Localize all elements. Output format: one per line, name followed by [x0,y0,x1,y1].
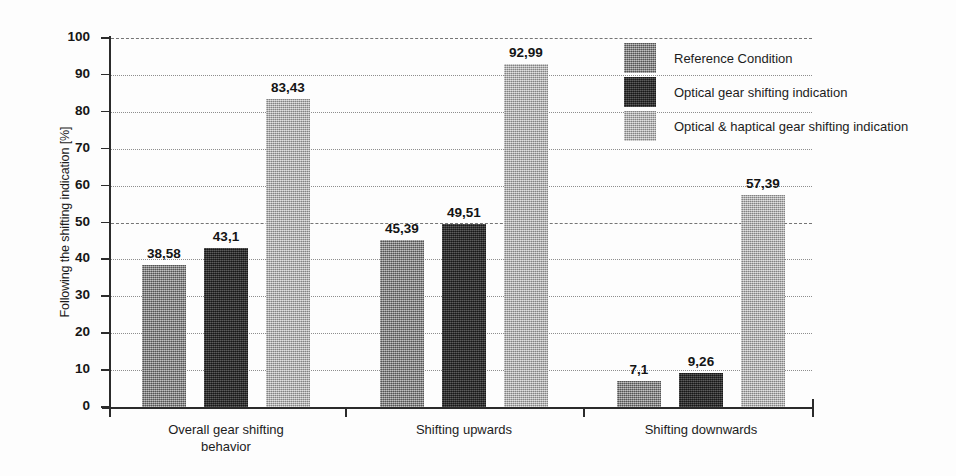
bar-value-label: 9,26 [665,354,737,369]
legend-swatch-icon [624,111,656,141]
bar-chart-figure: Following the shifting indication [%] 10… [0,0,956,476]
legend-label: Reference Condition [674,51,793,66]
bar[interactable] [617,381,661,407]
bar[interactable] [204,248,248,407]
bar-value-label: 38,58 [128,246,200,261]
x-axis-tick [345,408,347,417]
bar[interactable] [504,64,548,407]
legend-label: Optical & haptical gear shifting indicat… [674,119,908,134]
bar[interactable] [142,265,186,407]
bar[interactable] [442,224,486,407]
bars-layer: 38,5845,397,143,149,519,2683,4392,9957,3… [0,0,956,476]
x-axis-tick [812,408,814,417]
bar-value-label: 83,43 [252,80,324,95]
bar-value-label: 43,1 [190,229,262,244]
bar-value-label: 92,99 [490,45,562,60]
bar-value-label: 57,39 [727,176,799,191]
legend-item[interactable]: Reference Condition [624,42,793,74]
x-axis-category-label: Shifting upwards [354,421,574,438]
bar[interactable] [741,195,785,407]
bar[interactable] [380,240,424,407]
bar-value-label: 49,51 [428,205,500,220]
bar[interactable] [266,99,310,407]
legend-swatch-icon [624,77,656,107]
legend-item[interactable]: Optical & haptical gear shifting indicat… [624,110,908,142]
x-axis-tick [583,408,585,417]
x-axis-tick [109,408,111,417]
legend-label: Optical gear shifting indication [674,85,847,100]
legend-swatch-icon [624,43,656,73]
bar-value-label: 45,39 [366,221,438,236]
x-axis-category-label: Shifting downwards [591,421,811,438]
x-axis-category-label: Overall gear shifting behavior [116,421,336,455]
bar[interactable] [679,373,723,407]
legend-item[interactable]: Optical gear shifting indication [624,76,847,108]
